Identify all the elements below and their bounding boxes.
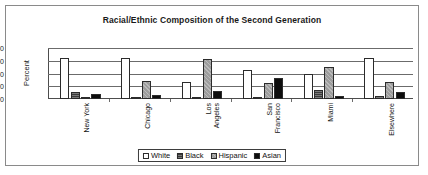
bar-black-miami (314, 90, 323, 99)
legend-item-asian[interactable]: Asian (254, 151, 281, 160)
x-axis-label-san-francisco: SanFrancisco (266, 103, 281, 133)
bar-black-new-york (71, 92, 80, 99)
gridline-40 (48, 74, 413, 75)
legend-label-white: White (151, 151, 170, 160)
bar-asian-elsewhere (396, 92, 405, 99)
bar-asian-chicago (152, 95, 161, 99)
bar-asian-miami (335, 96, 344, 99)
bar-black-los-angeles (192, 97, 201, 99)
legend-label-black: Black (185, 151, 203, 160)
x-tick (352, 99, 353, 102)
bar-white-new-york (60, 58, 69, 99)
gridline-20 (48, 86, 413, 87)
bar-group (182, 48, 222, 99)
x-tick (109, 99, 110, 102)
x-axis-label-elsewhere: Elsewhere (388, 103, 396, 136)
legend-swatch-black (177, 153, 183, 159)
x-tick (291, 99, 292, 102)
bar-black-chicago (131, 97, 140, 99)
legend-label-hispanic: Hispanic (218, 151, 247, 160)
bar-hispanic-new-york (81, 97, 90, 99)
bar-hispanic-los-angeles (203, 59, 212, 99)
bar-group (304, 48, 344, 99)
bar-asian-new-york (91, 94, 100, 99)
gridline-80 (48, 48, 413, 49)
y-tick-label-60: 60 (0, 57, 4, 64)
x-tick (170, 99, 171, 102)
bar-white-chicago (121, 58, 130, 99)
bar-group (60, 48, 100, 99)
gridline-60 (48, 61, 413, 62)
y-axis-label: Percent (22, 60, 31, 86)
x-axis-label-los-angeles: LosAngeles (205, 103, 220, 128)
chart-title: Racial/Ethnic Composition of the Second … (6, 15, 418, 25)
bar-group (243, 48, 283, 99)
chart-frame: Racial/Ethnic Composition of the Second … (5, 5, 419, 166)
x-tick (231, 99, 232, 102)
x-axis-label-miami: Miami (327, 103, 335, 122)
plot-area: 020406080 (48, 48, 413, 99)
bar-asian-los-angeles (213, 91, 222, 99)
legend-swatch-hispanic (210, 153, 216, 159)
legend-swatch-white (143, 153, 149, 159)
bar-hispanic-chicago (142, 81, 151, 99)
bar-group (121, 48, 161, 99)
legend-item-black[interactable]: Black (177, 151, 203, 160)
x-axis-label-chicago: Chicago (144, 103, 152, 129)
bar-white-los-angeles (182, 82, 191, 99)
y-tick-label-20: 20 (0, 83, 4, 90)
bar-white-elsewhere (364, 58, 373, 99)
legend-item-white[interactable]: White (143, 151, 170, 160)
chart-legend: WhiteBlackHispanicAsian (138, 149, 286, 162)
bar-hispanic-san-francisco (264, 83, 273, 99)
bar-white-san-francisco (243, 70, 252, 99)
bar-group (364, 48, 404, 99)
bar-hispanic-elsewhere (385, 82, 394, 99)
bar-black-elsewhere (375, 96, 384, 99)
legend-item-hispanic[interactable]: Hispanic (210, 151, 247, 160)
bar-asian-san-francisco (274, 78, 283, 99)
legend-label-asian: Asian (262, 151, 281, 160)
legend-swatch-asian (254, 153, 260, 159)
y-tick-label-80: 80 (0, 45, 4, 52)
bar-black-san-francisco (253, 97, 262, 99)
bar-white-miami (304, 74, 313, 100)
x-axis-label-new-york: New York (83, 103, 91, 133)
y-tick-label-0: 0 (0, 96, 4, 103)
y-tick-label-40: 40 (0, 70, 4, 77)
bar-hispanic-miami (324, 67, 333, 100)
